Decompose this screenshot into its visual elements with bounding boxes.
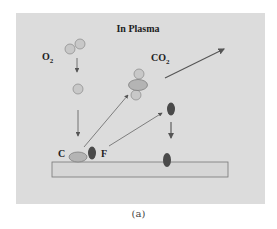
co2-label: CO2 — [151, 52, 170, 66]
f-molecule-bound-icon — [88, 147, 96, 160]
f-to-ellipse-arrow — [109, 113, 162, 146]
c-to-co2-arrow — [84, 95, 128, 147]
co2-release-arrow — [165, 49, 224, 78]
c-label: C — [58, 148, 65, 159]
f-label: F — [101, 148, 107, 159]
o2-label: O2 — [42, 51, 54, 65]
f-molecule-free-icon — [167, 103, 175, 116]
plasma-diagram: In Plasma O2 CO2 C F — [0, 0, 277, 229]
o2-molecule-icon — [65, 39, 85, 54]
figure-caption: (a) — [0, 208, 277, 219]
title-text: In Plasma — [116, 23, 159, 34]
c-molecule-icon — [69, 152, 87, 162]
o-atom-icon — [73, 84, 83, 94]
membrane-surface — [52, 162, 228, 177]
f-molecule-membrane-icon — [163, 153, 171, 167]
co2-molecule-icon — [129, 69, 148, 100]
